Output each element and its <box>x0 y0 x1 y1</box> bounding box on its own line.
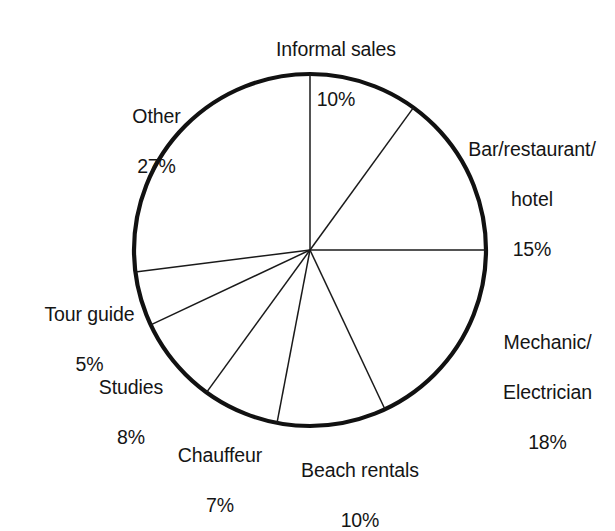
slice-name-beach-rentals: Beach rentals <box>280 458 440 483</box>
slice-percent-informal-sales: 10% <box>246 87 426 112</box>
slice-label-bar-restaurant-hotel: Bar/restaurant/ hotel 15% <box>452 112 612 287</box>
slice-label-informal-sales: Informal sales 10% <box>246 12 426 137</box>
slice-name-bar-restaurant-line2: hotel <box>452 187 612 212</box>
slice-name-bar-restaurant-line1: Bar/restaurant/ <box>452 137 612 162</box>
slice-label-mechanic-electrician: Mechanic/ Electrician 18% <box>480 305 615 480</box>
slice-label-other: Other 27% <box>104 79 209 204</box>
slice-percent-chauffeur: 7% <box>160 493 280 518</box>
slice-percent-other: 27% <box>104 154 209 179</box>
slice-name-mechanic-line1: Mechanic/ <box>480 330 615 355</box>
slice-name-tour-guide: Tour guide <box>27 302 152 327</box>
slice-percent-bar-restaurant: 15% <box>452 237 612 262</box>
slice-percent-mechanic: 18% <box>480 430 615 455</box>
slice-name-informal-sales: Informal sales <box>246 37 426 62</box>
slice-label-beach-rentals: Beach rentals 10% <box>280 433 440 531</box>
slice-name-mechanic-line2: Electrician <box>480 380 615 405</box>
slice-percent-studies: 8% <box>76 425 186 450</box>
slice-label-tour-guide: Tour guide 5% <box>27 277 152 402</box>
slice-name-other: Other <box>104 104 209 129</box>
slice-percent-beach-rentals: 10% <box>280 508 440 531</box>
slice-percent-tour-guide: 5% <box>27 352 152 377</box>
